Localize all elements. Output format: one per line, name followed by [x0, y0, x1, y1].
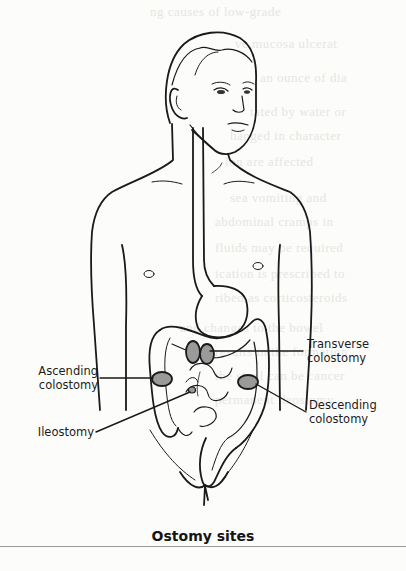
label-line: Ascending	[22, 364, 98, 378]
label-line: colostomy	[309, 412, 377, 426]
divider-rule	[0, 546, 406, 547]
stoma-sites	[152, 341, 258, 393]
label-ileostomy: Ileostomy	[20, 425, 94, 439]
stoma-ascending	[152, 372, 172, 386]
stomach	[196, 286, 248, 338]
label-line: Transverse	[307, 337, 369, 351]
label-line: Ileostomy	[20, 425, 94, 439]
head	[166, 32, 256, 154]
stoma-descending	[238, 375, 258, 389]
ostomy-sites-illustration	[0, 0, 406, 571]
label-transverse-colostomy: Transverse colostomy	[307, 337, 369, 365]
label-descending-colostomy: Descending colostomy	[309, 398, 377, 426]
figure-caption: Ostomy sites	[0, 528, 406, 544]
label-line: colostomy	[307, 351, 369, 365]
stoma-transverse-right	[200, 344, 214, 364]
esophagus	[193, 128, 214, 296]
label-ascending-colostomy: Ascending colostomy	[22, 364, 98, 392]
label-line: Descending	[309, 398, 377, 412]
label-line: colostomy	[22, 378, 98, 392]
stoma-transverse-left	[186, 341, 200, 363]
